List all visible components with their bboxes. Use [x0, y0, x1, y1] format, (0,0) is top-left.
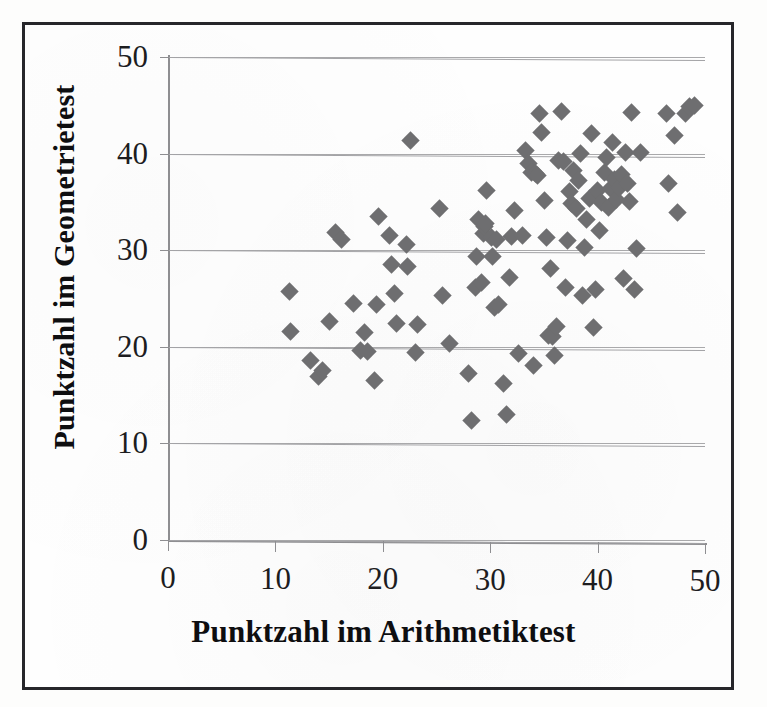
- x-tick-10: [275, 541, 276, 552]
- y-tick-label-20: 20: [86, 331, 148, 362]
- data-point: [365, 372, 383, 390]
- data-point: [631, 143, 649, 161]
- data-point: [497, 405, 515, 423]
- figure-page: 01020304050 01020304050 Punktzahl im Geo…: [0, 0, 767, 707]
- data-point: [500, 268, 518, 286]
- x-tick-20: [383, 541, 384, 552]
- data-point: [509, 344, 527, 362]
- data-point: [556, 278, 574, 296]
- data-point: [483, 248, 501, 266]
- data-point: [382, 256, 400, 274]
- data-point: [397, 236, 415, 254]
- data-point: [402, 131, 420, 149]
- data-point: [385, 285, 403, 303]
- data-point: [558, 232, 576, 250]
- y-tick-label-40: 40: [86, 138, 148, 169]
- data-point: [513, 227, 531, 245]
- data-point: [281, 322, 299, 340]
- data-point: [623, 104, 641, 122]
- data-point: [440, 334, 458, 352]
- data-point: [506, 201, 524, 219]
- data-point: [460, 364, 478, 382]
- data-point: [380, 226, 398, 244]
- x-tick-label-0: 0: [133, 562, 203, 593]
- plot-area: [168, 57, 705, 540]
- data-point: [431, 199, 449, 217]
- x-tick-label-50: 50: [670, 565, 740, 596]
- x-tick-30: [490, 542, 491, 553]
- x-axis-title: Punktzahl im Arithmetiktest: [0, 614, 767, 650]
- y-tick-label-30: 30: [86, 234, 148, 265]
- data-point: [355, 323, 373, 341]
- data-point: [668, 203, 686, 221]
- x-tick-40: [598, 542, 599, 553]
- y-axis-title: Punktzahl im Geometrietest: [47, 7, 81, 527]
- data-point: [666, 126, 684, 144]
- data-point: [530, 104, 548, 122]
- data-point: [584, 319, 602, 337]
- data-point: [621, 192, 639, 210]
- data-point: [367, 295, 385, 313]
- y-tick-label-50: 50: [86, 41, 148, 72]
- data-point: [657, 105, 675, 123]
- x-tick-label-10: 10: [240, 563, 310, 594]
- data-point: [576, 239, 594, 257]
- data-point: [320, 312, 338, 330]
- data-point: [545, 347, 563, 365]
- y-tick-label-0: 0: [86, 524, 148, 555]
- x-tick-label-20: 20: [348, 563, 418, 594]
- x-tick-50: [705, 543, 706, 554]
- data-point: [345, 294, 363, 312]
- data-point: [369, 207, 387, 225]
- x-tick-label-40: 40: [563, 564, 633, 595]
- data-point: [541, 260, 559, 278]
- data-point: [533, 123, 551, 141]
- data-point: [552, 102, 570, 120]
- data-point: [388, 315, 406, 333]
- data-point: [478, 181, 496, 199]
- data-point: [582, 125, 600, 143]
- gridline-y-0: [168, 540, 705, 541]
- data-point: [434, 286, 452, 304]
- x-tick-label-30: 30: [455, 564, 525, 595]
- data-point: [659, 174, 677, 192]
- data-point: [591, 221, 609, 239]
- data-point: [537, 229, 555, 247]
- x-tick-0: [168, 540, 169, 551]
- data-point: [398, 257, 416, 275]
- data-point: [408, 315, 426, 333]
- data-point: [536, 191, 554, 209]
- data-point: [524, 356, 542, 374]
- y-tick-label-10: 10: [86, 427, 148, 458]
- data-point: [494, 374, 512, 392]
- data-point: [280, 282, 298, 300]
- data-point: [463, 412, 481, 430]
- data-point: [627, 240, 645, 258]
- data-point: [571, 144, 589, 162]
- data-point: [406, 343, 424, 361]
